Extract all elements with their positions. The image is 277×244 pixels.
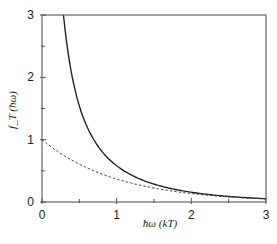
- y-tick-label: 1: [27, 133, 34, 147]
- dashed-curve: [42, 140, 266, 199]
- y-tick-label: 3: [27, 8, 34, 22]
- y-axis-label: f_T (ħω): [6, 91, 19, 129]
- y-tick-label: 2: [27, 70, 34, 84]
- x-tick-label: 2: [188, 208, 195, 222]
- tick-labels: 01230123: [27, 8, 269, 222]
- plot-frame: [42, 15, 266, 202]
- x-tick-label: 0: [39, 208, 46, 222]
- x-tick-label: 1: [113, 208, 120, 222]
- x-tick-label: 3: [263, 208, 270, 222]
- chart: 01230123 ħω (kT) f_T (ħω): [0, 0, 277, 244]
- axis-ticks: [40, 15, 266, 204]
- x-axis-label: ħω (kT): [143, 217, 178, 230]
- y-tick-label: 0: [27, 195, 34, 209]
